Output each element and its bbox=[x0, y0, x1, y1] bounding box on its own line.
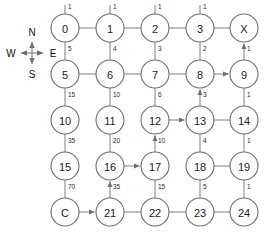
edge-weight-label: 15 bbox=[158, 183, 166, 190]
node-label: 0 bbox=[62, 23, 68, 35]
edge-weight-label: 1 bbox=[113, 3, 117, 10]
graph-node-C[interactable]: C bbox=[51, 198, 79, 226]
node-label: 6 bbox=[107, 69, 113, 81]
graph-node-0[interactable]: 0 bbox=[51, 14, 79, 42]
node-label: 21 bbox=[104, 207, 116, 219]
node-label: 2 bbox=[152, 23, 158, 35]
graph-node-6[interactable]: 6 bbox=[96, 60, 124, 88]
graph-node-22[interactable]: 22 bbox=[141, 198, 169, 226]
node-label: 14 bbox=[238, 115, 250, 127]
graph-node-1[interactable]: 1 bbox=[96, 14, 124, 42]
graph-node-12[interactable]: 12 bbox=[141, 106, 169, 134]
node-label: 18 bbox=[194, 161, 206, 173]
edge-weight-label: 10 bbox=[113, 91, 121, 98]
node-label: 1 bbox=[107, 23, 113, 35]
edge-weight-label: 3 bbox=[203, 91, 207, 98]
node-label: 3 bbox=[197, 23, 203, 35]
edge-weight-label: 5 bbox=[68, 45, 72, 52]
edge-weight-label: 15 bbox=[68, 91, 76, 98]
node-label: 5 bbox=[62, 69, 68, 81]
graph-node-19[interactable]: 19 bbox=[230, 152, 258, 180]
compass-north-label: N bbox=[28, 27, 35, 38]
graph-node-24[interactable]: 24 bbox=[230, 198, 258, 226]
edge-weight-label: 1 bbox=[68, 3, 72, 10]
node-label: 11 bbox=[104, 115, 115, 127]
compass-layer: NSEW bbox=[6, 27, 56, 80]
edge-weight-label: 4 bbox=[113, 45, 117, 52]
node-label: 12 bbox=[149, 115, 161, 127]
graph-diagram: 54321151063135201041703515511111 0123X56… bbox=[0, 0, 268, 235]
node-label: 19 bbox=[238, 161, 250, 173]
compass-east-label: E bbox=[50, 48, 57, 59]
node-label: 9 bbox=[241, 69, 247, 81]
graph-node-16[interactable]: 16 bbox=[96, 152, 124, 180]
graph-node-10[interactable]: 10 bbox=[51, 106, 79, 134]
compass-west-label: W bbox=[6, 48, 16, 59]
graph-node-8[interactable]: 8 bbox=[186, 60, 214, 88]
edge-weight-label: 3 bbox=[158, 45, 162, 52]
compass-south-label: S bbox=[29, 69, 36, 80]
edge-weight-label: 1 bbox=[247, 45, 251, 52]
edge-weight-label: 2 bbox=[203, 45, 207, 52]
edge-weight-label: 5 bbox=[203, 183, 207, 190]
graph-node-9[interactable]: 9 bbox=[230, 60, 258, 88]
node-label: 15 bbox=[59, 161, 71, 173]
graph-node-7[interactable]: 7 bbox=[141, 60, 169, 88]
edge-weight-label: 70 bbox=[68, 183, 76, 190]
edge-weight-label: 1 bbox=[158, 3, 162, 10]
graph-node-11[interactable]: 11 bbox=[96, 106, 124, 134]
node-label: 16 bbox=[104, 161, 116, 173]
node-label: 17 bbox=[149, 161, 161, 173]
edge-weight-label: 6 bbox=[158, 91, 162, 98]
graph-node-X[interactable]: X bbox=[230, 14, 258, 42]
graph-node-18[interactable]: 18 bbox=[186, 152, 214, 180]
node-label: 8 bbox=[197, 69, 203, 81]
node-label: 7 bbox=[152, 69, 158, 81]
node-label: 22 bbox=[149, 207, 161, 219]
node-label: 10 bbox=[59, 115, 71, 127]
edge-weight-label: 4 bbox=[203, 137, 207, 144]
node-label: 24 bbox=[238, 207, 250, 219]
graph-node-21[interactable]: 21 bbox=[96, 198, 124, 226]
edge-weight-label: 1 bbox=[203, 3, 207, 10]
edge-weight-label: 35 bbox=[68, 137, 76, 144]
graph-node-5[interactable]: 5 bbox=[51, 60, 79, 88]
node-label: 23 bbox=[194, 207, 206, 219]
graph-canvas: 54321151063135201041703515511111 0123X56… bbox=[0, 0, 268, 235]
edge-weight-label: 20 bbox=[113, 137, 121, 144]
graph-node-13[interactable]: 13 bbox=[186, 106, 214, 134]
node-label: C bbox=[61, 207, 69, 219]
edge-weight-label: 1 bbox=[247, 91, 251, 98]
graph-node-17[interactable]: 17 bbox=[141, 152, 169, 180]
edge-weight-label: 1 bbox=[247, 137, 251, 144]
graph-node-14[interactable]: 14 bbox=[230, 106, 258, 134]
graph-node-23[interactable]: 23 bbox=[186, 198, 214, 226]
edge-weight-label: 35 bbox=[113, 183, 121, 190]
node-label: X bbox=[240, 23, 248, 35]
graph-node-3[interactable]: 3 bbox=[186, 14, 214, 42]
node-label: 13 bbox=[194, 115, 206, 127]
graph-node-2[interactable]: 2 bbox=[141, 14, 169, 42]
edge-weight-label: 1 bbox=[247, 183, 251, 190]
graph-node-15[interactable]: 15 bbox=[51, 152, 79, 180]
edge-weight-label: 10 bbox=[158, 137, 166, 144]
